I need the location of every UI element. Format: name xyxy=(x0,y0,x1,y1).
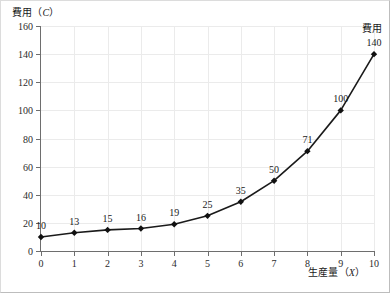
x-axis-tick xyxy=(141,251,142,256)
x-axis-tick-label: 6 xyxy=(238,258,243,269)
x-axis-tick-label: 7 xyxy=(272,258,277,269)
series-annotation-label: 費用 xyxy=(362,20,382,35)
x-axis-tick-label: 0 xyxy=(39,258,44,269)
chart-figure: 費用（C） 生産量（X） 020406080100120140160 01234… xyxy=(0,0,390,293)
y-axis-tick-label: 0 xyxy=(28,246,33,257)
x-axis-tick xyxy=(374,251,375,256)
gridline-vertical xyxy=(374,26,375,251)
data-point-marker xyxy=(171,221,177,227)
x-axis-tick xyxy=(41,251,42,256)
y-axis-title-paren-close: ） xyxy=(49,7,59,18)
x-axis-tick xyxy=(307,251,308,256)
x-axis-tick-label: 10 xyxy=(369,258,379,269)
plot-area: 020406080100120140160 012345678910 10131… xyxy=(41,26,374,251)
data-point-value-label: 10 xyxy=(36,220,46,231)
x-axis-tick xyxy=(241,251,242,256)
x-axis-tick-label: 2 xyxy=(105,258,110,269)
data-point-value-label: 25 xyxy=(203,199,213,210)
data-point-value-label: 15 xyxy=(103,213,113,224)
data-point-value-label: 50 xyxy=(269,164,279,175)
x-axis-tick-label: 8 xyxy=(305,258,310,269)
x-axis-tick xyxy=(74,251,75,256)
data-point-marker xyxy=(38,234,44,240)
x-axis-tick-label: 3 xyxy=(138,258,143,269)
data-point-marker xyxy=(104,227,110,233)
data-point-value-label: 19 xyxy=(169,207,179,218)
y-axis-tick-label: 140 xyxy=(18,49,33,60)
y-axis-tick-label: 20 xyxy=(23,217,33,228)
x-axis-title-text: 生産量 xyxy=(308,267,339,278)
y-axis-tick-label: 100 xyxy=(18,105,33,116)
data-point-marker xyxy=(71,230,77,236)
x-axis-tick xyxy=(108,251,109,256)
x-axis-tick-label: 1 xyxy=(72,258,77,269)
y-axis-title-paren-open: （ xyxy=(32,7,42,18)
data-point-value-label: 71 xyxy=(302,134,312,145)
y-axis-tick-label: 120 xyxy=(18,77,33,88)
y-axis-tick-label: 160 xyxy=(18,21,33,32)
cost-markers xyxy=(38,51,377,240)
x-axis-title-paren-close: ） xyxy=(355,267,365,278)
cost-curve xyxy=(41,26,374,251)
y-axis-tick-label: 60 xyxy=(23,161,33,172)
y-axis-tick-label: 80 xyxy=(23,133,33,144)
data-point-marker xyxy=(204,213,210,219)
x-axis-tick xyxy=(341,251,342,256)
data-point-value-label: 16 xyxy=(136,212,146,223)
x-axis-tick-label: 5 xyxy=(205,258,210,269)
y-axis-title: 費用（C） xyxy=(12,4,60,19)
data-point-value-label: 13 xyxy=(69,216,79,227)
x-axis-tick-label: 9 xyxy=(338,258,343,269)
y-axis-tick-label: 40 xyxy=(23,189,33,200)
data-point-value-label: 35 xyxy=(236,185,246,196)
data-point-value-label: 140 xyxy=(367,37,382,48)
x-axis-tick-label: 4 xyxy=(172,258,177,269)
x-axis-title: 生産量（X） xyxy=(308,264,365,279)
data-point-marker xyxy=(138,225,144,231)
data-point-value-label: 100 xyxy=(333,93,348,104)
x-axis-tick xyxy=(208,251,209,256)
x-axis-tick xyxy=(274,251,275,256)
y-axis-title-text: 費用 xyxy=(12,7,32,18)
x-axis-tick xyxy=(174,251,175,256)
